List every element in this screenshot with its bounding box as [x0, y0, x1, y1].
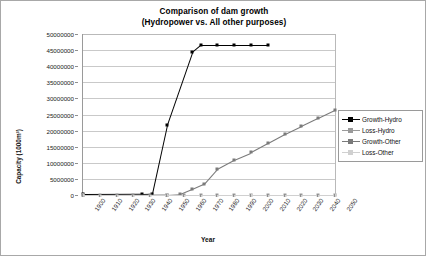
x-axis-tick-label: 1930 [143, 197, 157, 212]
data-point-marker [233, 44, 236, 47]
y-axis-tick-mark [75, 34, 78, 35]
x-axis-tick-label: 2000 [261, 197, 275, 212]
y-axis-tick-mark [75, 147, 78, 148]
x-axis-tick-mark [99, 194, 100, 197]
x-axis-tick-label: 2020 [294, 197, 308, 212]
x-axis-tick-labels: 1900191019201930194019501960197019801990… [82, 197, 334, 233]
data-point-marker [283, 133, 286, 136]
y-axis-tick-labels: 0500000010000000150000002000000025000000… [1, 34, 78, 195]
x-axis-tick-mark [166, 194, 167, 197]
legend-item-label: Loss-Hydro [360, 127, 395, 134]
data-point-marker [334, 109, 337, 112]
data-point-marker [266, 142, 269, 145]
series-line-segment [251, 195, 335, 196]
legend-item-label: Growth-Hydro [360, 116, 402, 123]
legend-item[interactable]: Loss-Other [342, 147, 418, 158]
x-axis-tick-label: 1940 [160, 197, 174, 212]
y-axis-tick-mark [75, 98, 78, 99]
x-axis-tick-label: 1990 [244, 197, 258, 212]
data-point-marker [250, 44, 253, 47]
x-axis-tick-mark [200, 194, 201, 197]
series-line-segment [217, 45, 234, 46]
chart-legend: Growth-HydroLoss-HydroGrowth-OtherLoss-O… [338, 110, 423, 162]
x-axis-tick-mark [267, 194, 268, 197]
data-point-marker [233, 158, 236, 161]
x-axis-tick-label: 1920 [126, 197, 140, 212]
x-axis-tick-label: 2010 [278, 197, 292, 212]
gridline [83, 147, 335, 148]
plot-area [82, 34, 336, 195]
x-axis-tick-mark [216, 194, 217, 197]
x-axis-tick-label: 1900 [93, 197, 107, 212]
data-point-marker [202, 182, 205, 185]
x-axis-tick-mark [334, 194, 335, 197]
series-line-segment [204, 169, 218, 185]
series-line-segment [83, 195, 167, 196]
x-axis-tick-label: 2030 [311, 197, 325, 212]
x-axis-tick-mark [300, 194, 301, 197]
y-axis-tick-mark [75, 163, 78, 164]
gridline [83, 34, 335, 35]
y-axis-tick-label: 5000000 [50, 175, 74, 182]
x-axis-tick-mark [317, 194, 318, 197]
chart-title-line2: (Hydropower vs. All other purposes) [1, 17, 426, 28]
gridline [83, 82, 335, 83]
series-line-segment [234, 45, 251, 46]
x-axis-tick-mark [149, 194, 150, 197]
x-axis-tick-mark [116, 194, 117, 197]
series-line-segment [251, 45, 268, 46]
x-axis-tick-mark [284, 194, 285, 197]
y-axis-tick-mark [75, 66, 78, 67]
data-point-marker [191, 51, 194, 54]
y-axis-tick-label: 25000000 [46, 111, 74, 118]
data-point-marker [250, 151, 253, 154]
chart-container: Comparison of dam growth (Hydropower vs.… [0, 0, 426, 256]
y-axis-tick-label: 20000000 [46, 127, 74, 134]
y-axis-tick-mark [75, 50, 78, 51]
y-axis-tick-mark [75, 131, 78, 132]
series-line-segment [152, 125, 168, 194]
chart-title-line1: Comparison of dam growth [1, 6, 426, 17]
legend-swatch-icon [342, 148, 360, 157]
y-axis-tick-label: 40000000 [46, 63, 74, 70]
data-point-marker [300, 125, 303, 128]
gridline [83, 66, 335, 67]
data-point-marker [266, 44, 269, 47]
x-axis-tick-mark [183, 194, 184, 197]
data-point-marker [166, 123, 169, 126]
y-axis-tick-label: 30000000 [46, 95, 74, 102]
x-axis-tick-mark [82, 194, 83, 197]
gridline [83, 115, 335, 116]
data-point-marker [216, 167, 219, 170]
series-line-segment [201, 45, 218, 46]
x-axis-tick-label: 1970 [210, 197, 224, 212]
data-point-marker [199, 44, 202, 47]
y-axis-tick-mark [75, 195, 78, 196]
x-axis-tick-label: 2050 [345, 197, 359, 212]
x-axis-tick-mark [250, 194, 251, 197]
y-axis-tick-label: 15000000 [46, 143, 74, 150]
legend-item[interactable]: Growth-Hydro [342, 114, 418, 125]
x-axis-tick-label: 1980 [227, 197, 241, 212]
legend-item[interactable]: Loss-Hydro [342, 125, 418, 136]
series-line-segment [167, 195, 251, 196]
legend-item[interactable]: Growth-Other [342, 136, 418, 147]
gridline [83, 50, 335, 51]
data-point-marker [216, 44, 219, 47]
y-axis-tick-label: 45000000 [46, 47, 74, 54]
y-axis-tick-label: 10000000 [46, 159, 74, 166]
x-axis-tick-label: 2040 [328, 197, 342, 212]
legend-swatch-icon [342, 115, 360, 124]
y-axis-tick-mark [75, 82, 78, 83]
y-axis-tick-mark [75, 115, 78, 116]
gridline [83, 163, 335, 164]
x-axis-tick-label: 1910 [110, 197, 124, 212]
x-axis-tick-label: 1950 [177, 197, 191, 212]
gridline [83, 131, 335, 132]
y-axis-tick-label: 35000000 [46, 79, 74, 86]
data-point-marker [191, 187, 194, 190]
legend-swatch-icon [342, 137, 360, 146]
y-axis-tick-label: 50000000 [46, 31, 74, 38]
y-axis-tick-label: 0 [71, 192, 74, 199]
chart-title: Comparison of dam growth (Hydropower vs.… [1, 6, 426, 28]
